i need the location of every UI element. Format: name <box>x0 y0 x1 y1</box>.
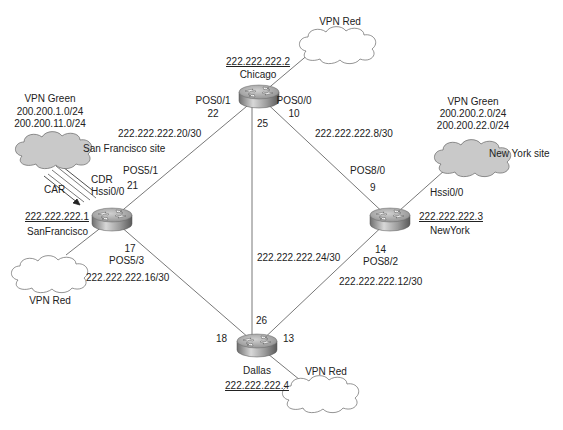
ny-name: NewYork <box>430 225 470 237</box>
sf-host-17: 17 <box>115 243 145 255</box>
sf-green-prefix1: 200.200.1.0/24 <box>10 106 90 118</box>
car-label: CAR <box>44 184 65 196</box>
router-newyork-icon <box>370 208 410 231</box>
chicago-pos01: POS0/1 <box>193 95 233 107</box>
chicago-red-vpn-label: VPN Red <box>310 16 370 28</box>
dallas-loopback: 222.222.222.4 <box>220 380 294 392</box>
cloud-sf-green <box>15 132 91 169</box>
ny-pos80: POS8/0 <box>350 165 385 177</box>
dallas-host-18: 18 <box>216 333 227 345</box>
sf-site-label: San Francisco site <box>83 143 165 155</box>
subnet-12-30: 222.222.222.12/30 <box>339 276 422 288</box>
chicago-host-10: 10 <box>274 108 314 120</box>
ny-host-14: 14 <box>375 244 386 256</box>
ny-green-vpn: VPN Green <box>428 96 518 108</box>
subnet-8-30: 222.222.222.8/30 <box>315 128 393 140</box>
cloud-sf-red <box>11 256 87 293</box>
dallas-host-26: 26 <box>256 315 267 327</box>
ny-loopback: 222.222.222.3 <box>419 211 483 223</box>
chicago-host-22: 22 <box>193 108 233 120</box>
sf-pos53: POS5/3 <box>109 255 144 267</box>
router-chicago-icon <box>239 85 279 108</box>
cdr-label: CDR <box>91 174 113 186</box>
sf-red-vpn-label: VPN Red <box>20 295 80 307</box>
router-sanfrancisco-icon <box>92 208 132 231</box>
sf-name: SanFrancisco <box>27 226 88 238</box>
chicago-pos00: POS0/0 <box>274 95 314 107</box>
ny-pos82: POS8/2 <box>363 256 398 268</box>
sf-green-vpn: VPN Green <box>10 93 90 105</box>
sf-green-prefix2: 200.200.11.0/24 <box>10 118 90 130</box>
subnet-20-30: 222.222.222.20/30 <box>118 128 201 140</box>
sf-host-21: 21 <box>127 180 138 192</box>
sf-pos51: POS5/1 <box>123 165 158 177</box>
chicago-name: Chicago <box>226 69 290 81</box>
sf-loopback: 222.222.222.1 <box>25 211 89 223</box>
ny-green-prefix1: 200.200.2.0/24 <box>428 108 518 120</box>
dallas-name: Dallas <box>225 365 289 377</box>
dallas-host-13: 13 <box>283 333 294 345</box>
chicago-loopback: 222.222.222.2 <box>226 56 290 68</box>
ny-host-9: 9 <box>370 182 376 194</box>
router-dallas-icon <box>237 334 277 357</box>
ny-green-prefix2: 200.200.22.0/24 <box>428 120 518 132</box>
ny-hssi-label: Hssi0/0 <box>430 187 463 199</box>
ny-site-label: New York site <box>489 148 550 160</box>
cloud-chicago-red <box>299 27 375 64</box>
sf-hssi-label: Hssi0/0 <box>91 186 124 198</box>
chicago-host-25: 25 <box>257 118 268 130</box>
subnet-24-30: 222.222.222.24/30 <box>257 252 340 264</box>
subnet-16-30: 222.222.222.16/30 <box>86 272 169 284</box>
link-sf-chicago <box>112 96 259 219</box>
dallas-red-vpn-label: VPN Red <box>296 366 356 378</box>
